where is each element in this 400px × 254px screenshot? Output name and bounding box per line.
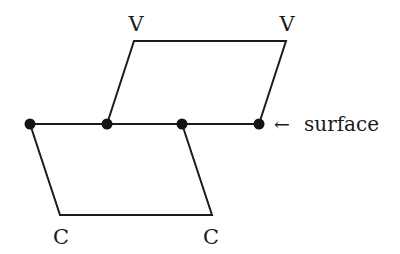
label-surface: surface (304, 112, 379, 136)
lower-parallelogram (30, 124, 212, 215)
label-v-right: V (278, 12, 295, 36)
node-1 (25, 119, 36, 130)
surface-diagram: V V C C ← surface (0, 0, 400, 254)
node-4 (254, 119, 265, 130)
node-3 (177, 119, 188, 130)
label-v-left: V (127, 12, 144, 36)
node-2 (102, 119, 113, 130)
left-arrow-icon: ← (274, 113, 290, 135)
upper-parallelogram (107, 41, 286, 124)
label-c-left: C (53, 225, 69, 249)
label-c-right: C (203, 225, 219, 249)
